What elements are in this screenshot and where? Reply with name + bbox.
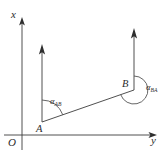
alpha-ab-subscript: AB [54, 101, 61, 107]
angle-label-alpha-ba: αBA [146, 83, 157, 92]
y-axis [4, 132, 157, 138]
x-axis-label: x [11, 9, 16, 20]
x-axis [19, 17, 25, 150]
origin-label: O [8, 137, 16, 148]
alpha-ba-subscript: BA [150, 87, 157, 93]
azimuth-diagram-figure: x y O A B αAB αBA [0, 0, 168, 159]
angle-label-alpha-ab: αAB [50, 97, 61, 106]
point-label-a: A [36, 124, 42, 135]
diagram-canvas [0, 0, 168, 159]
north-ray-at-b [131, 28, 137, 90]
y-axis-label: y [151, 135, 156, 146]
north-ray-at-a [39, 44, 45, 122]
point-label-b: B [122, 79, 128, 90]
